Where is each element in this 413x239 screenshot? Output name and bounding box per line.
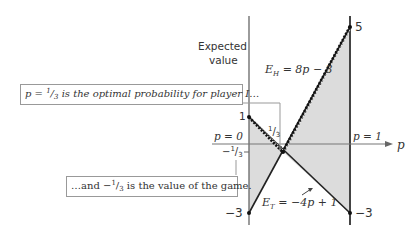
tick-label-1: 1	[239, 111, 246, 122]
callout-bottom-num: 1	[111, 179, 115, 187]
point-p0-1	[247, 115, 251, 119]
label-p1: p = 1	[353, 131, 382, 142]
y-axis-title-line2: value	[209, 55, 238, 66]
x-axis-label: p	[397, 139, 405, 151]
callout-top-prefix: p =	[25, 88, 46, 99]
label-neg-one-third: −1/3	[222, 146, 243, 159]
callout-bottom-prefix: …and −	[71, 180, 111, 191]
point-p1-5	[348, 25, 352, 29]
tick-label-5: 5	[355, 21, 363, 33]
one-third-den: 3	[276, 131, 280, 139]
point-p0-neg3	[247, 211, 251, 215]
ET-main: E	[262, 196, 270, 209]
point-p1-neg3	[348, 211, 352, 215]
callout-top-suffix: is the optimal probability for player I…	[58, 88, 259, 99]
callout-game-value: …and −1/3 is the value of the game.	[66, 176, 238, 197]
intersection-point	[281, 150, 285, 154]
tick-label-neg3-left: −3	[225, 207, 243, 219]
label-p0: p = 0	[214, 131, 243, 142]
label-ET: ET = −4p + 1	[262, 197, 337, 211]
EH-main: E	[265, 63, 273, 76]
label-one-third: 1/3	[268, 126, 280, 139]
EH-rest: = 8p − 3	[279, 63, 332, 76]
tick-label-neg3-right: −3	[355, 207, 373, 219]
shaded-region-right	[283, 27, 350, 213]
callout-bottom-suffix: is the value of the game.	[124, 180, 252, 191]
neg-third-den: 3	[238, 151, 242, 159]
neg-third-num: 1	[230, 145, 234, 153]
diagram-canvas	[0, 0, 413, 239]
y-axis-title-line1: Expected	[198, 41, 247, 52]
ET-rest: = −4p + 1	[275, 196, 338, 209]
one-third-num: 1	[268, 125, 272, 133]
x-axis-arrow-icon	[385, 141, 393, 147]
callout-optimal-probability: p = 1/3 is the optimal probability for p…	[20, 84, 243, 105]
callout-top-num: 1	[46, 87, 50, 95]
label-EH: EH = 8p − 3	[265, 64, 333, 78]
